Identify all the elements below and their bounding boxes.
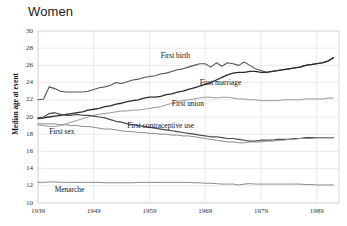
y-tick-label: 12 (19, 181, 33, 189)
y-tick-label: 20 (19, 113, 33, 121)
series-label-first-birth: First birth (161, 51, 190, 60)
y-tick-label: 10 (19, 199, 33, 207)
x-tick-label: 1979 (249, 207, 273, 215)
y-tick-label: 14 (19, 164, 33, 172)
series-label-first-sex: First sex (49, 127, 74, 136)
y-tick-label: 28 (19, 44, 33, 52)
y-tick-label: 30 (19, 27, 33, 35)
x-tick-label: 1959 (137, 207, 161, 215)
series-label-first-contraceptive-use: First contraceptive use (127, 121, 194, 130)
x-tick-label: 1949 (82, 207, 106, 215)
y-tick-label: 26 (19, 61, 33, 69)
x-tick-label: 1989 (305, 207, 329, 215)
plot-area (0, 0, 347, 226)
series-label-first-marriage: First marriage (200, 78, 242, 87)
series-line-first-birth (38, 58, 333, 100)
y-tick-label: 22 (19, 95, 33, 103)
series-label-first-union: First union (172, 99, 204, 108)
x-tick-label: 1969 (193, 207, 217, 215)
y-tick-label: 18 (19, 130, 33, 138)
x-tick-label: 1939 (26, 207, 50, 215)
chart-figure: Women Median age at event 30282624222018… (0, 0, 347, 226)
y-tick-label: 16 (19, 147, 33, 155)
series-label-menarche: Menarche (55, 185, 85, 194)
y-tick-label: 24 (19, 78, 33, 86)
series-line-first-marriage (38, 58, 333, 119)
